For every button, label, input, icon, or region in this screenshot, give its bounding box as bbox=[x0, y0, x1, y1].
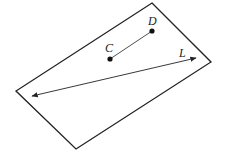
label-c: C bbox=[105, 41, 114, 55]
point-d bbox=[149, 28, 154, 33]
diagram-svg: C D L bbox=[0, 0, 225, 161]
label-l: L bbox=[178, 46, 186, 60]
label-d: D bbox=[147, 14, 157, 28]
point-c bbox=[107, 56, 112, 61]
geometry-diagram: C D L bbox=[0, 0, 225, 161]
plane-parallelogram bbox=[16, 3, 211, 149]
segment-cd bbox=[110, 31, 152, 59]
line-l bbox=[32, 58, 196, 96]
